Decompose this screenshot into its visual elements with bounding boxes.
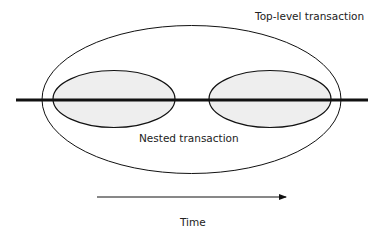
top-level-transaction-label: Top-level transaction: [255, 10, 364, 22]
time-label: Time: [180, 216, 206, 228]
nested-transaction-diagram: Top-level transaction Nested transaction…: [0, 0, 385, 237]
nested-transaction-label: Nested transaction: [139, 132, 239, 144]
diagram-shapes: [0, 0, 385, 237]
